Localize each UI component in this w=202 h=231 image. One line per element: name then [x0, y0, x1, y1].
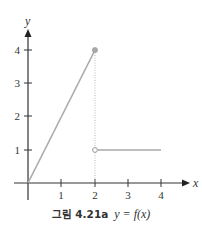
figure-equation: y = f(x): [114, 207, 150, 221]
x-tick-label: 4: [158, 189, 164, 201]
y-tick-label: 2: [15, 110, 21, 122]
y-tick-label: 1: [15, 144, 21, 156]
figure-label: 그림 4.21a: [52, 208, 109, 220]
x-axis-label: x: [192, 176, 199, 190]
open-point-icon: [93, 148, 98, 153]
series-segment-1: [28, 50, 95, 183]
x-axis-arrow-icon: [182, 180, 190, 187]
chart-canvas: 1 2 3 4 1 2 3 4 x y: [0, 0, 202, 231]
x-tick-label: 1: [58, 189, 64, 201]
closed-point-icon: [92, 47, 97, 52]
y-axis-arrow-icon: [25, 29, 32, 37]
y-tick-label: 4: [15, 44, 21, 56]
y-axis-label: y: [24, 14, 31, 28]
y-tick-label: 3: [15, 77, 21, 89]
x-tick-label: 2: [92, 189, 98, 201]
x-tick-label: 3: [125, 189, 131, 201]
figure-caption: 그림 4.21ay = f(x): [0, 206, 202, 222]
